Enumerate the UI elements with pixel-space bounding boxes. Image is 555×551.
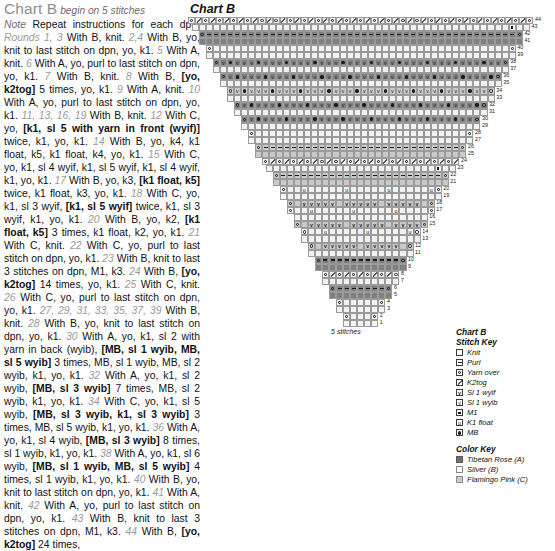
chart-row-number: 28 — [475, 129, 481, 136]
chart-cell — [445, 144, 452, 151]
chart-row-pad — [188, 38, 199, 45]
chart-cell — [452, 137, 459, 144]
chart-cell — [325, 59, 332, 66]
chart-row-number: 29 — [482, 122, 488, 129]
chart-cell — [421, 17, 428, 24]
chart-cell — [414, 165, 421, 172]
chart-cell — [266, 165, 273, 172]
chart-cell — [315, 193, 322, 200]
chart-cell — [382, 52, 389, 59]
chart-cell — [375, 102, 382, 109]
chart-cell — [329, 200, 336, 207]
chart-cell — [385, 250, 392, 257]
chart-cell — [340, 116, 347, 123]
chart-cell — [375, 144, 382, 151]
chart-cell — [473, 45, 480, 52]
chart-cell — [357, 207, 364, 214]
chart-cell — [364, 221, 371, 228]
chart-cell — [318, 144, 325, 151]
chart-cell — [318, 31, 325, 38]
chart-row-pad — [188, 31, 199, 38]
chart-cell — [438, 102, 445, 109]
chart-cell — [332, 52, 339, 59]
chart-cell — [347, 80, 354, 87]
chart-cell — [361, 95, 368, 102]
chart-cell — [269, 123, 276, 130]
chart-cell — [322, 17, 329, 24]
chart-cell — [347, 87, 354, 94]
chart-cell — [329, 207, 336, 214]
chart-cell — [297, 95, 304, 102]
chart-row-number: 38 — [510, 58, 516, 65]
chart-cell — [329, 165, 336, 172]
chart-cell — [315, 257, 322, 264]
chart-cell — [325, 116, 332, 123]
chart-cell — [368, 137, 375, 144]
chart-cell — [343, 179, 350, 186]
chart-cell — [445, 66, 452, 73]
chart-cell — [389, 116, 396, 123]
chart-cell — [332, 137, 339, 144]
chart-cell — [452, 130, 459, 137]
chart-cell — [297, 52, 304, 59]
chart-cell — [495, 38, 502, 45]
chart-cell — [340, 80, 347, 87]
chart-cell — [255, 137, 262, 144]
chart-cell — [371, 179, 378, 186]
chart-cell — [325, 66, 332, 73]
chart-cell — [421, 186, 428, 193]
chart-cell — [403, 109, 410, 116]
chart-cell — [392, 235, 399, 242]
chart-cell — [473, 102, 480, 109]
chart-cell — [308, 17, 315, 24]
chart-cell — [301, 214, 308, 221]
chart-cell — [206, 52, 213, 59]
chart-cell — [290, 109, 297, 116]
chart-cell — [473, 73, 480, 80]
chart-cell — [392, 257, 399, 264]
chart-cell — [301, 200, 308, 207]
color-key-heading: Color Key — [456, 445, 555, 455]
chart-cell — [498, 17, 505, 24]
chart-row — [188, 193, 533, 200]
chart-cell — [311, 144, 318, 151]
chart-cell — [234, 31, 241, 38]
chart-cell — [403, 38, 410, 45]
chart-cell — [206, 38, 213, 45]
chart-cell — [269, 80, 276, 87]
chart-cell — [417, 144, 424, 151]
chart-cell — [375, 116, 382, 123]
chart-cell — [283, 144, 290, 151]
chart-cell — [350, 221, 357, 228]
chart-cell — [452, 116, 459, 123]
chart-cell — [340, 31, 347, 38]
chart-cell — [304, 102, 311, 109]
chart-cell — [283, 116, 290, 123]
chart-cell — [269, 73, 276, 80]
chart-cell — [276, 151, 283, 158]
chart-cell — [459, 116, 466, 123]
chart-cell — [332, 144, 339, 151]
chart-cell — [227, 24, 234, 31]
chart-cell — [255, 109, 262, 116]
chart-cell — [329, 172, 336, 179]
chart-cell — [336, 17, 343, 24]
chart-cell — [371, 235, 378, 242]
knit-icon — [456, 349, 463, 356]
chart-cell — [220, 45, 227, 52]
chart-cell — [357, 165, 364, 172]
chart-row — [188, 299, 533, 306]
chart-cell — [382, 123, 389, 130]
chart-cell — [343, 271, 350, 278]
chart-cell — [315, 186, 322, 193]
chart-cell — [392, 250, 399, 257]
chart-row-pad — [188, 292, 329, 299]
chart-cell — [340, 144, 347, 151]
chart-cell — [354, 80, 361, 87]
chart-cell — [491, 17, 498, 24]
chart-cell — [354, 130, 361, 137]
chart-cell — [340, 137, 347, 144]
chart-cell — [392, 228, 399, 235]
chart-cell — [399, 193, 406, 200]
chart-cell — [459, 137, 466, 144]
